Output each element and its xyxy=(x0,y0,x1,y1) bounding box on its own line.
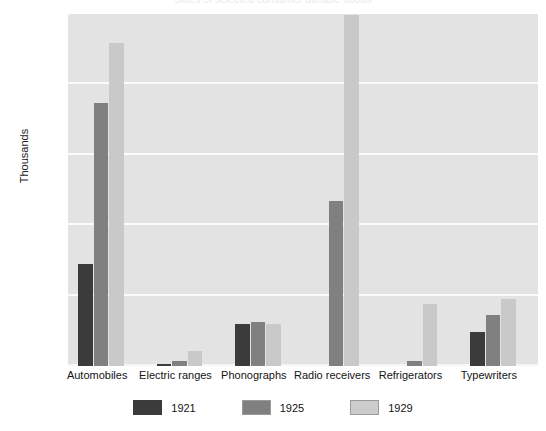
bar-group xyxy=(68,14,146,366)
bar-chart: Sales of selected consumer durable goods… xyxy=(0,0,546,431)
bar xyxy=(251,322,266,366)
bar xyxy=(344,15,359,366)
bar xyxy=(501,299,516,366)
x-axis-category-label: Phonographs xyxy=(215,369,293,381)
bar xyxy=(109,43,124,366)
bar-group xyxy=(303,14,381,366)
bar xyxy=(78,264,93,366)
x-axis-category-label: Automobiles xyxy=(58,369,136,381)
bar-group xyxy=(381,14,459,366)
x-axis-category-label: Radio receivers xyxy=(293,369,371,381)
bar xyxy=(423,304,438,366)
legend-item[interactable]: 1921 xyxy=(133,400,195,415)
bar xyxy=(235,324,250,366)
bar xyxy=(407,361,422,366)
dark-gray-swatch xyxy=(133,400,162,415)
bar xyxy=(157,364,172,366)
light-gray-swatch xyxy=(350,400,379,415)
legend-label: 1929 xyxy=(388,402,412,414)
legend-item[interactable]: 1929 xyxy=(350,400,412,415)
x-axis-category-labels: AutomobilesElectric rangesPhonographsRad… xyxy=(68,369,538,385)
plot-area xyxy=(68,14,538,366)
bar xyxy=(470,332,485,366)
medium-gray-swatch xyxy=(242,400,271,415)
bar xyxy=(188,351,203,366)
bar xyxy=(94,103,109,366)
bar-group xyxy=(225,14,303,366)
bar xyxy=(329,201,344,366)
legend-label: 1925 xyxy=(280,402,304,414)
bar xyxy=(266,324,281,366)
bar-group xyxy=(460,14,538,366)
bar-group xyxy=(146,14,224,366)
bar xyxy=(172,361,187,366)
x-axis-category-label: Typewriters xyxy=(450,369,528,381)
legend-item[interactable]: 1925 xyxy=(242,400,304,415)
x-axis-category-label: Refrigerators xyxy=(371,369,449,381)
x-axis-category-label: Electric ranges xyxy=(136,369,214,381)
legend-label: 1921 xyxy=(171,402,195,414)
bar xyxy=(486,315,501,366)
chart-legend: 192119251929 xyxy=(0,400,546,415)
chart-title: Sales of selected consumer durable goods xyxy=(0,0,546,3)
